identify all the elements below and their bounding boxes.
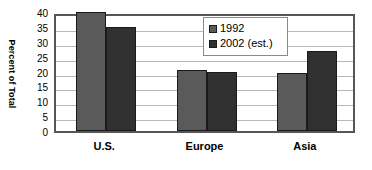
bar-group [76,16,136,131]
bar [277,73,307,131]
legend: 19922002 (est.) [203,17,288,56]
legend-swatch-icon [209,25,217,33]
y-axis-title-text: Percent of Total [7,40,17,109]
y-axis-tick-label: 40 [37,9,48,19]
y-axis-title: Percent of Total [2,14,22,134]
bar-chart: Percent of Total 0510152025303540 199220… [0,0,372,170]
y-axis-tick-label: 15 [37,83,48,93]
y-axis-tick-labels: 0510152025303540 [24,14,51,133]
legend-item: 2002 (est.) [209,36,282,51]
bar [177,70,207,131]
y-axis-tick-label: 35 [37,24,48,34]
bar [307,51,337,131]
y-axis-tick-label: 20 [37,69,48,79]
legend-swatch-icon [209,40,217,48]
x-axis-tick-label: Europe [186,140,224,152]
y-axis-tick-label: 25 [37,54,48,64]
y-axis-tick-label: 5 [42,113,48,123]
bar [207,72,237,132]
legend-item: 1992 [209,21,282,36]
bar [106,27,136,131]
x-axis-tick-labels: U.S.EuropeAsia [54,140,355,158]
y-axis-tick-label: 30 [37,39,48,49]
x-axis-tick-label: U.S. [93,140,114,152]
legend-label: 2002 (est.) [220,38,273,49]
legend-label: 1992 [220,23,244,34]
x-axis-tick-label: Asia [293,140,316,152]
bar [76,12,106,131]
y-axis-tick-label: 10 [37,98,48,108]
y-axis-tick-label: 0 [42,128,48,138]
